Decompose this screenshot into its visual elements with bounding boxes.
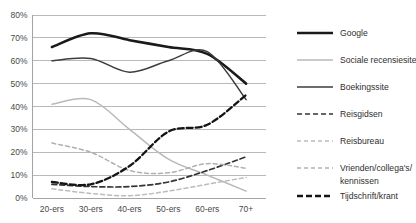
y-axis-tick-label: 60% xyxy=(10,56,27,66)
legend-item-label: Sociale recensiesite xyxy=(340,55,416,65)
data-series xyxy=(52,33,246,196)
series-line xyxy=(52,50,246,100)
x-axis-tick-label: 50-ers xyxy=(156,204,180,214)
legend-item-label: Vrienden/collega's/ xyxy=(340,163,413,173)
chart-figure: 0%10%20%30%40%50%60%70%80% 20-ers30-ers4… xyxy=(0,0,416,223)
y-axis-tick-label: 80% xyxy=(10,10,27,20)
legend: GoogleSociale recensiesiteBoekingssiteRe… xyxy=(297,28,416,201)
y-axis-tick-label: 70% xyxy=(10,33,27,43)
x-axis-tick-label: 70+ xyxy=(239,204,253,214)
y-axis-tick-labels: 0%10%20%30%40%50%60%70%80% xyxy=(10,10,27,203)
y-axis-tick-label: 50% xyxy=(10,79,27,89)
y-axis-tick-label: 30% xyxy=(10,124,27,134)
x-axis-tick-labels: 20-ers30-ers40-ers50-ers60-ers70+ xyxy=(40,204,253,214)
legend-item-label: Reisgidsen xyxy=(340,109,383,119)
series-line xyxy=(52,98,246,191)
y-axis-tick-label: 10% xyxy=(10,170,27,180)
y-axis-tick-label: 40% xyxy=(10,102,27,112)
line-chart: 0%10%20%30%40%50%60%70%80% 20-ers30-ers4… xyxy=(0,0,416,223)
legend-item-label: Tijdschrift/krant xyxy=(340,191,399,201)
legend-item-label: Google xyxy=(340,28,368,38)
legend-item-label: Reisbureau xyxy=(340,136,384,146)
series-line xyxy=(52,95,246,185)
y-axis-tick-label: 0% xyxy=(15,193,28,203)
x-axis-tick-label: 30-ers xyxy=(79,204,103,214)
x-axis-tick-label: 40-ers xyxy=(118,204,142,214)
y-axis-tick-label: 20% xyxy=(10,147,27,157)
legend-item-label: kennissen xyxy=(340,176,379,186)
series-line xyxy=(52,157,246,187)
x-axis-tick-label: 60-ers xyxy=(195,204,219,214)
legend-item-label: Boekingssite xyxy=(340,82,389,92)
x-axis-tick-label: 20-ers xyxy=(40,204,64,214)
